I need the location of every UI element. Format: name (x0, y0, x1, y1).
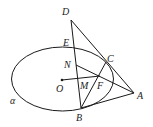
label-F: F (97, 81, 103, 91)
label-B: B (76, 113, 82, 123)
diagram-svg (0, 0, 153, 127)
label-O: O (56, 84, 63, 94)
label-alpha: α (10, 96, 15, 106)
label-C: C (107, 54, 114, 64)
label-M: M (80, 81, 88, 91)
label-A: A (137, 91, 143, 101)
label-N: N (64, 60, 71, 70)
segment-DB (71, 20, 81, 108)
label-E: E (63, 38, 69, 48)
point-O (61, 79, 64, 82)
geometry-diagram: D E N C O M F A B α (0, 0, 153, 127)
segment-AB (81, 93, 134, 108)
label-D: D (62, 7, 69, 17)
